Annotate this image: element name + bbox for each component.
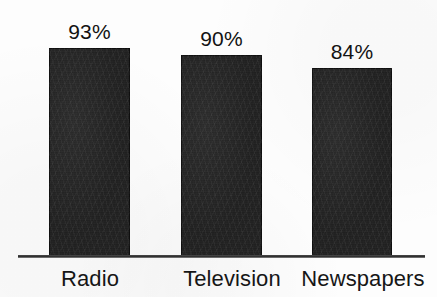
bar-radio: [49, 48, 130, 256]
plot-area: 93% 90% 84% Radio Television Newspapers: [0, 0, 437, 297]
category-label-radio: Radio: [40, 266, 140, 292]
bar-newspapers: [312, 68, 392, 256]
category-label-television: Television: [174, 266, 290, 292]
category-label-newspapers: Newspapers: [300, 266, 426, 292]
x-axis-line: [18, 255, 425, 258]
bar-value-label-newspapers: 84%: [312, 40, 392, 64]
bar-value-label-television: 90%: [181, 27, 262, 51]
bar-chart-figure: 93% 90% 84% Radio Television Newspapers: [0, 0, 437, 297]
bar-value-label-radio: 93%: [49, 20, 130, 44]
bar-television: [181, 55, 262, 256]
